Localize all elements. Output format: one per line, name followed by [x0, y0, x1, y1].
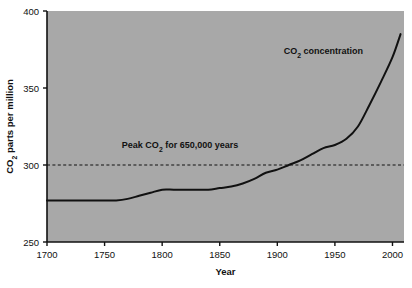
y-axis-tick-label: 400 — [23, 6, 39, 17]
y-axis-tick-label: 250 — [23, 237, 39, 248]
chart-figure: 1700175018001850190019502000 25030035040… — [0, 0, 412, 288]
x-axis-tick-label: 1750 — [94, 249, 115, 260]
y-axis-tick-label: 350 — [23, 83, 39, 94]
co2-concentration-line-chart: 1700175018001850190019502000 25030035040… — [0, 0, 412, 288]
x-axis-tick-label: 1800 — [152, 249, 173, 260]
x-axis-tick-label: 1700 — [36, 249, 57, 260]
x-axis-tick-label: 1850 — [209, 249, 230, 260]
x-axis-tick-label: 1950 — [324, 249, 345, 260]
x-axis-title: Year — [215, 266, 235, 277]
y-axis-tick-label: 300 — [23, 160, 39, 171]
x-axis-tick-label: 1900 — [267, 249, 288, 260]
x-axis-tick-label: 2000 — [382, 249, 403, 260]
